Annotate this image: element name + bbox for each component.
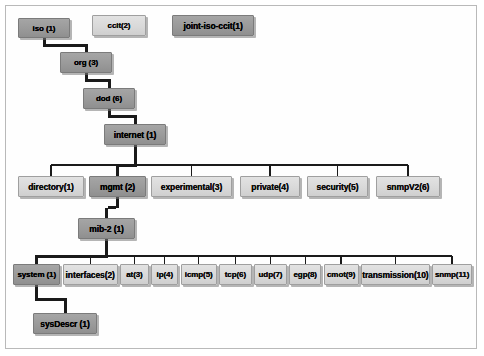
mib-node-label: internet (1) [114,130,157,140]
mib-node-label: at(3) [126,270,142,279]
mib-node-iso[interactable]: iso (1) [18,18,70,38]
mib-node-label: mib-2 (1) [89,224,124,234]
mib-node-label: icmp(5) [185,270,213,279]
mib-node-label: transmission(10) [362,270,428,280]
mib-node-label: private(4) [251,182,288,192]
mib-node-label: system (1) [17,270,56,279]
mib-tree-figure: iso (1)ccit(2)joint-iso-ccit(1)org (3)do… [0,0,484,356]
mib-node-system[interactable]: system (1) [13,264,60,285]
mib-node-label: directory(1) [28,182,74,192]
mib-node-label: ccit(2) [108,21,131,30]
mib-node-icmp[interactable]: icmp(5) [181,264,217,285]
mib-node-directory[interactable]: directory(1) [18,176,84,197]
mib-node-dod[interactable]: dod (6) [83,88,135,109]
mib-node-label: egp(8) [294,270,317,279]
mib-node-mgmt[interactable]: mgmt (2) [89,176,146,197]
mib-node-label: tcp(6) [225,270,246,279]
mib-node-snmpV2[interactable]: snmpV2(6) [376,176,440,197]
mib-node-label: joint-iso-ccit(1) [183,21,242,31]
mib-node-label: mgmt (2) [100,182,135,192]
mib-node-label: sysDescr (1) [40,319,89,329]
mib-node-internet[interactable]: internet (1) [104,124,166,145]
mib-node-label: experimental(3) [161,182,222,192]
mib-node-tcp[interactable]: tcp(6) [219,264,252,285]
mib-node-ccit[interactable]: ccit(2) [92,15,146,36]
mib-node-mib2[interactable]: mib-2 (1) [78,218,135,239]
mib-node-label: udp(7) [259,270,283,279]
mib-node-label: cmot(9) [327,270,355,279]
mib-node-interfaces[interactable]: interfaces(2) [63,264,118,285]
mib-node-label: security(5) [317,182,359,192]
mib-node-sysDescr[interactable]: sysDescr (1) [33,313,97,334]
mib-node-label: snmp(11) [435,270,469,279]
mib-node-udp[interactable]: udp(7) [254,264,287,285]
mib-node-label: ip(4) [157,270,173,279]
mib-node-label: org (3) [74,58,98,67]
mib-node-label: snmpV2(6) [387,182,430,192]
mib-node-private[interactable]: private(4) [240,176,300,197]
mib-node-at[interactable]: at(3) [120,264,149,285]
mib-node-transmission[interactable]: transmission(10) [361,264,430,285]
mib-node-label: dod (6) [96,94,122,103]
mib-node-cmot[interactable]: cmot(9) [324,264,359,285]
mib-node-security[interactable]: security(5) [307,176,368,197]
mib-node-egp[interactable]: egp(8) [289,264,321,285]
mib-node-snmp[interactable]: snmp(11) [432,264,472,285]
mib-node-org[interactable]: org (3) [60,52,112,73]
mib-node-experimental[interactable]: experimental(3) [151,176,232,197]
mib-node-ip[interactable]: ip(4) [151,264,178,285]
mib-node-label: interfaces(2) [66,270,115,280]
mib-node-label: iso (1) [33,24,56,33]
mib-node-joint[interactable]: joint-iso-ccit(1) [172,15,254,36]
